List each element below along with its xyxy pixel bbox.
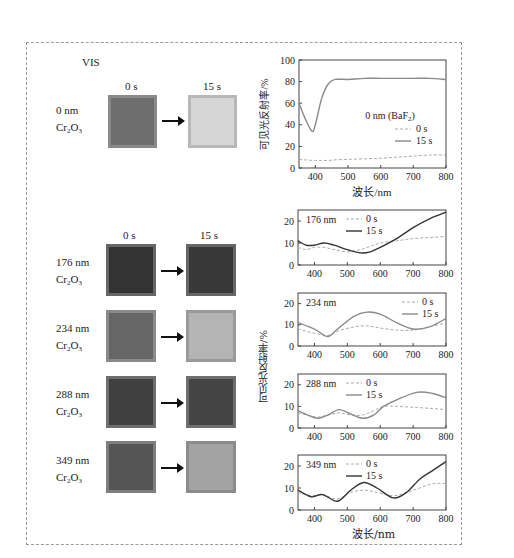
y-tick-label: 0 bbox=[289, 505, 294, 516]
shared-xlabel: 波长/nm bbox=[352, 525, 395, 541]
y-tick-label: 100 bbox=[280, 55, 295, 66]
x-tick-label: 500 bbox=[340, 513, 355, 524]
x-tick-label: 700 bbox=[406, 513, 421, 524]
x-tick-label: 800 bbox=[439, 431, 454, 442]
x-tick-label: 800 bbox=[439, 171, 454, 182]
y-tick-label: 10 bbox=[284, 483, 294, 494]
chart-title: 0 nm (BaF2) bbox=[365, 110, 415, 123]
y-tick-label: 0 bbox=[289, 423, 294, 434]
x-tick-label: 800 bbox=[439, 349, 454, 360]
legend-label: 0 s bbox=[416, 123, 428, 134]
y-tick-label: 20 bbox=[284, 298, 294, 309]
x-axis-label: 波长/nm bbox=[352, 186, 392, 198]
legend-label: 0 s bbox=[422, 296, 434, 307]
x-tick-label: 500 bbox=[340, 349, 355, 360]
y-tick-label: 20 bbox=[285, 141, 295, 152]
y-tick-label: 10 bbox=[284, 238, 294, 249]
y-tick-label: 20 bbox=[284, 379, 294, 390]
x-tick-label: 800 bbox=[439, 268, 454, 279]
x-tick-label: 700 bbox=[406, 349, 421, 360]
y-tick-label: 80 bbox=[285, 76, 295, 87]
x-tick-label: 400 bbox=[307, 268, 322, 279]
legend-label: 0 s bbox=[366, 213, 378, 224]
x-tick-label: 600 bbox=[373, 349, 388, 360]
legend-label: 15 s bbox=[366, 389, 383, 400]
chart-title: 349 nm bbox=[306, 459, 337, 470]
x-tick-label: 500 bbox=[340, 431, 355, 442]
y-tick-label: 10 bbox=[284, 319, 294, 330]
x-tick-label: 600 bbox=[373, 171, 388, 182]
x-tick-label: 600 bbox=[373, 431, 388, 442]
x-tick-label: 700 bbox=[406, 268, 421, 279]
y-tick-label: 0 bbox=[289, 260, 294, 271]
x-tick-label: 400 bbox=[307, 513, 322, 524]
chart-title: 234 nm bbox=[306, 297, 337, 308]
y-tick-label: 20 bbox=[284, 216, 294, 227]
legend-label: 15 s bbox=[416, 135, 433, 146]
x-tick-label: 700 bbox=[406, 431, 421, 442]
y-axis-label: 可见光反射率/% bbox=[258, 78, 270, 149]
legend-label: 15 s bbox=[422, 308, 439, 319]
legend-label: 0 s bbox=[366, 458, 378, 469]
y-tick-label: 60 bbox=[285, 98, 295, 109]
x-tick-label: 400 bbox=[307, 431, 322, 442]
x-tick-label: 800 bbox=[439, 513, 454, 524]
x-tick-label: 400 bbox=[307, 349, 322, 360]
x-tick-label: 400 bbox=[308, 171, 323, 182]
x-tick-label: 500 bbox=[340, 268, 355, 279]
x-tick-label: 600 bbox=[373, 268, 388, 279]
y-tick-label: 0 bbox=[289, 341, 294, 352]
x-tick-label: 600 bbox=[373, 513, 388, 524]
y-tick-label: 40 bbox=[285, 119, 295, 130]
charts-svg: 4005006007008000204060801000 nm (BaF2)0 … bbox=[0, 0, 514, 558]
y-tick-label: 0 bbox=[290, 163, 295, 174]
chart-title: 288 nm bbox=[306, 378, 337, 389]
x-tick-label: 700 bbox=[406, 171, 421, 182]
x-tick-label: 500 bbox=[341, 171, 356, 182]
series-line-0s bbox=[299, 155, 446, 161]
y-tick-label: 10 bbox=[284, 401, 294, 412]
shared-ylabel: 可见光反射率/% bbox=[256, 330, 270, 403]
chart-title: 176 nm bbox=[306, 214, 337, 225]
legend-label: 15 s bbox=[366, 470, 383, 481]
y-tick-label: 20 bbox=[284, 461, 294, 472]
legend-label: 0 s bbox=[366, 377, 378, 388]
legend-label: 15 s bbox=[366, 225, 383, 236]
